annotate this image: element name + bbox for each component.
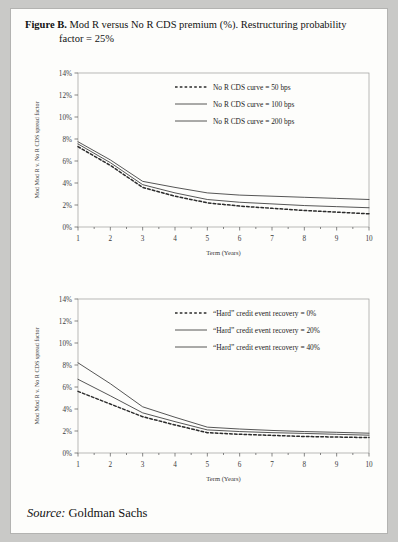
x-tick-label: 8 xyxy=(303,461,307,469)
x-tick-label: 2 xyxy=(109,461,113,469)
y-axis-label: Mod Mod R v. No R CDS spread factor xyxy=(34,102,40,199)
figure-panel: Figure B. Mod R versus No R CDS premium … xyxy=(11,9,387,533)
legend-label-2: “Hard” credit event recovery = 20% xyxy=(213,326,320,335)
x-tick-label: 4 xyxy=(173,235,177,243)
y-tick-label: 0% xyxy=(62,450,72,458)
x-tick-label: 10 xyxy=(365,461,373,469)
y-tick-label: 4% xyxy=(62,180,72,188)
figure-caption-line-1: Mod R versus No R CDS premium (%). Restr… xyxy=(69,19,346,30)
x-tick-label: 6 xyxy=(238,461,242,469)
x-tick-label: 7 xyxy=(270,235,274,243)
y-tick-label: 6% xyxy=(62,158,72,166)
y-tick-label: 12% xyxy=(59,92,72,100)
y-tick-label: 6% xyxy=(62,384,72,392)
x-tick-label: 9 xyxy=(335,235,339,243)
x-tick-label: 5 xyxy=(206,235,210,243)
source-note: Source: Goldman Sachs xyxy=(27,506,147,521)
legend-label-3: No R CDS curve = 200 bps xyxy=(213,117,294,126)
x-tick-label: 10 xyxy=(365,235,373,243)
chart-canvas-1: 0%2%4%6%8%10%12%14%12345678910Term (Year… xyxy=(25,55,375,267)
y-tick-label: 14% xyxy=(59,296,72,304)
chart-top: 0%2%4%6%8%10%12%14%12345678910Term (Year… xyxy=(25,55,375,267)
series-line-3 xyxy=(78,363,369,433)
x-tick-label: 2 xyxy=(109,235,113,243)
figure-label: Figure B. xyxy=(25,19,67,30)
series-line-2 xyxy=(78,379,369,435)
y-tick-label: 10% xyxy=(59,340,72,348)
figure-caption: Figure B. Mod R versus No R CDS premium … xyxy=(25,18,377,45)
x-tick-label: 3 xyxy=(141,235,145,243)
source-label: Source: xyxy=(27,506,65,520)
x-tick-label: 5 xyxy=(206,461,210,469)
y-tick-label: 14% xyxy=(59,70,72,78)
figure-caption-line-2: factor = 25% xyxy=(25,32,377,46)
y-tick-label: 8% xyxy=(62,136,72,144)
source-value: Goldman Sachs xyxy=(69,506,148,520)
y-tick-label: 8% xyxy=(62,362,72,370)
chart-bottom: 0%2%4%6%8%10%12%14%12345678910Term (Year… xyxy=(25,281,375,493)
legend-label-1: No R CDS curve = 50 bps xyxy=(213,83,291,92)
x-tick-label: 1 xyxy=(76,461,80,469)
y-tick-label: 2% xyxy=(62,428,72,436)
x-tick-label: 3 xyxy=(141,461,145,469)
chart-canvas-2: 0%2%4%6%8%10%12%14%12345678910Term (Year… xyxy=(25,281,375,493)
y-tick-label: 12% xyxy=(59,318,72,326)
y-tick-label: 2% xyxy=(62,202,72,210)
x-tick-label: 4 xyxy=(173,461,177,469)
y-tick-label: 4% xyxy=(62,406,72,414)
legend-label-1: “Hard” credit event recovery = 0% xyxy=(213,309,316,318)
x-tick-label: 6 xyxy=(238,235,242,243)
series-line-1 xyxy=(78,147,369,214)
x-tick-label: 1 xyxy=(76,235,80,243)
x-axis-label: Term (Years) xyxy=(206,249,241,257)
y-tick-label: 0% xyxy=(62,224,72,232)
x-tick-label: 9 xyxy=(335,461,339,469)
legend-label-2: No R CDS curve = 100 bps xyxy=(213,100,294,109)
y-axis-label: Mod Mod R v. No R CDS spread factor xyxy=(34,328,40,425)
legend-label-3: “Hard” credit event recovery = 40% xyxy=(213,343,320,352)
x-tick-label: 8 xyxy=(303,235,307,243)
plot-frame-2 xyxy=(78,299,369,453)
y-tick-label: 10% xyxy=(59,114,72,122)
x-axis-label: Term (Years) xyxy=(206,475,241,483)
x-tick-label: 7 xyxy=(270,461,274,469)
